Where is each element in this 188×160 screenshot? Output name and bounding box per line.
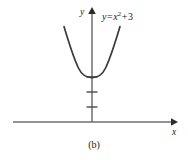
equation-plus: + bbox=[121, 11, 128, 22]
parabola-plot: y x bbox=[0, 0, 188, 160]
x-axis-arrow-icon bbox=[171, 118, 178, 126]
y-axis-label: y bbox=[79, 7, 85, 17]
y-axis-arrow-icon bbox=[88, 7, 96, 14]
equation-annotation: y=x2+3 bbox=[102, 12, 133, 22]
equation-constant: 3 bbox=[128, 11, 133, 22]
figure-container: y x y=x2+3 (b) bbox=[0, 0, 188, 160]
x-axis-label: x bbox=[171, 127, 177, 137]
figure-caption: (b) bbox=[0, 139, 188, 150]
equation-lhs: y bbox=[102, 11, 107, 22]
